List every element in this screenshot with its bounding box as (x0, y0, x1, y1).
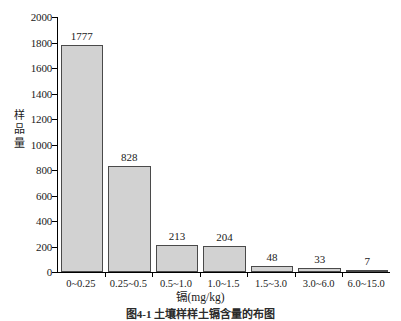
x-axis-tick (152, 272, 153, 277)
y-axis-tick-label: 2000 (31, 12, 52, 23)
x-axis-tick (247, 272, 248, 277)
y-axis-tick-label: 200 (36, 242, 52, 253)
y-axis-title-char-2: 品 (12, 122, 26, 136)
bar (156, 245, 199, 272)
bar (251, 266, 294, 272)
y-axis-tick-label: 1200 (31, 114, 52, 125)
y-axis-tick (52, 43, 57, 44)
y-axis-tick (52, 247, 57, 248)
x-axis-tick (200, 272, 201, 277)
y-axis-title-char-1: 样 (12, 108, 26, 122)
x-axis-tick-label: 6.0~15.0 (336, 278, 396, 290)
y-axis-title: 样 品 量 (12, 108, 26, 150)
bar-value-label: 204 (203, 232, 246, 243)
y-axis-tick-label: 1400 (31, 89, 52, 100)
y-axis-tick (52, 68, 57, 69)
y-axis-tick (52, 196, 57, 197)
bar (203, 246, 246, 272)
bar (108, 166, 151, 272)
bar-value-label: 828 (108, 152, 151, 163)
y-axis-tick (52, 145, 57, 146)
bar-value-label: 1777 (61, 31, 104, 42)
x-axis-tick (105, 272, 106, 277)
x-axis-line (57, 272, 390, 273)
bar-value-label: 213 (156, 231, 199, 242)
figure-caption: 图4-1 土壤样样土镉含量的布图 (0, 308, 401, 321)
x-axis-tick (295, 272, 296, 277)
y-axis-tick-label: 1800 (31, 38, 52, 49)
y-axis-tick (52, 170, 57, 171)
y-axis-tick-label: 400 (36, 216, 52, 227)
y-axis-tick-label: 800 (36, 165, 52, 176)
plot-area: 177782821320448337 (57, 17, 390, 272)
y-axis-tick-label: 600 (36, 191, 52, 202)
bar-value-label: 7 (346, 256, 389, 267)
y-axis-tick-label: 1000 (31, 140, 52, 151)
bar-value-label: 48 (251, 252, 294, 263)
y-axis-tick (52, 221, 57, 222)
y-axis-tick (52, 272, 57, 273)
y-axis-line (57, 17, 58, 272)
x-axis-title: 镉(mg/kg) (0, 291, 401, 304)
bar (346, 270, 389, 272)
y-axis-title-char-3: 量 (12, 136, 26, 150)
x-axis-tick (342, 272, 343, 277)
bar (298, 268, 341, 272)
y-axis-tick (52, 94, 57, 95)
bar (61, 45, 104, 272)
y-axis-tick (52, 119, 57, 120)
bar-value-label: 33 (298, 254, 341, 265)
y-axis-tick (52, 17, 57, 18)
y-axis-tick-label: 1600 (31, 63, 52, 74)
